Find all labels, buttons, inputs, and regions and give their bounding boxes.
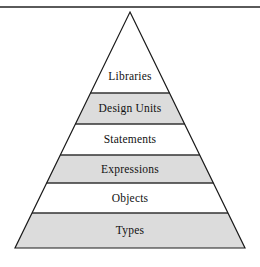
band-label-expressions: Expressions — [0, 164, 260, 176]
band-label-objects: Objects — [0, 193, 260, 205]
band-label-libraries: Libraries — [0, 71, 260, 83]
band-label-types: Types — [0, 225, 260, 237]
band-label-statements: Statements — [0, 134, 260, 146]
band-label-design-units: Design Units — [0, 103, 260, 115]
pyramid-figure: Libraries Design Units Statements Expres… — [0, 0, 260, 267]
